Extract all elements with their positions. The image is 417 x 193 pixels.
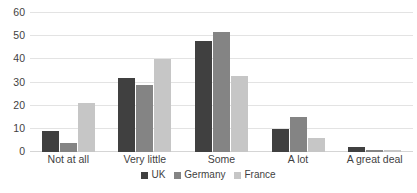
bar-germany-not-at-all[interactable]: [60, 143, 77, 152]
bar-france-some[interactable]: [231, 76, 248, 152]
y-axis-tick-label: 0: [19, 146, 25, 157]
legend-swatch-icon: [174, 172, 181, 179]
bar-germany-a-great-deal[interactable]: [366, 150, 383, 152]
bar-uk-a-great-deal[interactable]: [348, 147, 365, 152]
chart-legend: UKGermanyFrance: [0, 170, 417, 180]
bar-group: [30, 13, 107, 152]
y-axis-tick-label: 10: [13, 123, 25, 134]
legend-label: France: [244, 170, 275, 180]
bar-group: [183, 13, 260, 152]
bar-uk-a-lot[interactable]: [272, 129, 289, 152]
legend-item-uk[interactable]: UK: [141, 170, 165, 180]
bar-group: [336, 13, 413, 152]
bar-uk-not-at-all[interactable]: [42, 131, 59, 152]
legend-swatch-icon: [141, 172, 148, 179]
y-axis-tick-label: 30: [13, 76, 25, 87]
bar-chart: 0102030405060 Not at allVery littleSomeA…: [0, 0, 417, 193]
bar-uk-some[interactable]: [195, 41, 212, 152]
x-axis-tick-label: Some: [183, 154, 260, 166]
plot-area: 0102030405060: [30, 13, 413, 152]
y-axis-tick-label: 50: [13, 30, 25, 41]
y-axis-tick-label: 40: [13, 53, 25, 64]
bar-germany-some[interactable]: [213, 32, 230, 152]
bar-group: [260, 13, 337, 152]
bar-france-very-little[interactable]: [154, 59, 171, 152]
x-axis-tick-label: A lot: [260, 154, 337, 166]
bar-group: [107, 13, 184, 152]
bar-groups: [30, 13, 413, 152]
legend-label: UK: [151, 170, 165, 180]
x-axis-tick-label: Very little: [107, 154, 184, 166]
legend-item-france[interactable]: France: [234, 170, 275, 180]
bar-france-a-lot[interactable]: [308, 138, 325, 152]
y-axis-tick-label: 60: [13, 7, 25, 18]
legend-swatch-icon: [234, 172, 241, 179]
bar-germany-a-lot[interactable]: [290, 117, 307, 152]
x-axis-tick-label: A great deal: [336, 154, 413, 166]
bar-france-not-at-all[interactable]: [78, 103, 95, 152]
bar-uk-very-little[interactable]: [118, 78, 135, 152]
legend-label: Germany: [184, 170, 225, 180]
bar-france-a-great-deal[interactable]: [384, 150, 401, 152]
x-axis-tick-label: Not at all: [30, 154, 107, 166]
bar-germany-very-little[interactable]: [136, 85, 153, 152]
legend-item-germany[interactable]: Germany: [174, 170, 225, 180]
y-axis-tick-label: 20: [13, 99, 25, 110]
x-axis-labels: Not at allVery littleSomeA lotA great de…: [30, 154, 413, 166]
